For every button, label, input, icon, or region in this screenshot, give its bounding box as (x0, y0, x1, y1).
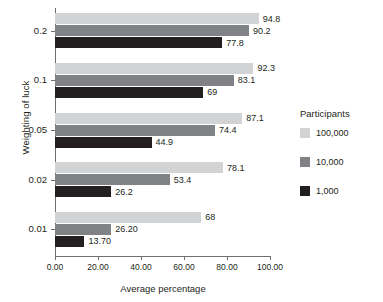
x-axis-tick (184, 256, 185, 260)
bar-value-label: 26.20 (115, 224, 138, 234)
y-axis-title: Weighting of luck (20, 48, 31, 188)
x-axis-tick-label: 0.00 (47, 262, 64, 272)
x-axis-title: Average percentage (55, 283, 271, 294)
bar[interactable] (55, 212, 201, 223)
bar-row: 68 (55, 212, 270, 223)
bar-value-label: 69 (207, 87, 217, 97)
legend-item[interactable]: 100,000 (300, 128, 380, 138)
bar-chart: Weighting of luck 0.294.890.277.80.192.3… (0, 0, 383, 302)
legend-item[interactable]: 10,000 (300, 157, 380, 167)
x-axis-tick (98, 256, 99, 260)
bar-row: 90.2 (55, 25, 270, 36)
legend-item-label: 100,000 (316, 128, 349, 138)
x-axis-tick (141, 256, 142, 260)
x-axis-tick-label: 40.00 (130, 262, 151, 272)
bar-value-label: 78.1 (227, 163, 245, 173)
bar-value-label: 90.2 (253, 26, 271, 36)
bar[interactable] (55, 162, 223, 173)
x-axis-tick (227, 256, 228, 260)
x-axis-tick (55, 256, 56, 260)
bar-row: 13.70 (55, 236, 270, 247)
legend-title: Participants (300, 108, 380, 119)
legend-swatch-icon (300, 128, 310, 138)
legend-item[interactable]: 1,000 (300, 186, 380, 196)
bar[interactable] (55, 75, 234, 86)
bar-group: 0.294.890.277.8 (55, 13, 270, 48)
bar-row: 78.1 (55, 162, 270, 173)
y-axis-tick-label: 0.05 (29, 124, 48, 135)
bar[interactable] (55, 186, 111, 197)
bar[interactable] (55, 137, 152, 148)
bar-row: 92.3 (55, 63, 270, 74)
x-axis-tick-label: 20.00 (87, 262, 108, 272)
bar-row: 26.2 (55, 186, 270, 197)
bar[interactable] (55, 13, 259, 24)
bar-row: 74.4 (55, 125, 270, 136)
bar-group: 0.0587.174.444.9 (55, 113, 270, 148)
bar[interactable] (55, 25, 249, 36)
bar-group: 0.0278.153.426.2 (55, 162, 270, 197)
bar-value-label: 26.2 (115, 187, 133, 197)
bar[interactable] (55, 37, 222, 48)
legend-swatch-icon (300, 157, 310, 167)
bar[interactable] (55, 174, 170, 185)
y-axis-tick-label: 0.1 (34, 74, 47, 85)
bar-group: 0.192.383.169 (55, 63, 270, 98)
bar-value-label: 87.1 (246, 113, 264, 123)
bar-group: 0.016826.2013.70 (55, 212, 270, 247)
y-axis-tick-label: 0.2 (34, 25, 47, 36)
legend: Participants 100,00010,0001,000 (300, 108, 380, 215)
bar[interactable] (55, 125, 215, 136)
x-axis-tick (270, 256, 271, 260)
legend-item-label: 1,000 (316, 186, 339, 196)
bar[interactable] (55, 87, 203, 98)
bar-row: 26.20 (55, 224, 270, 235)
x-axis-tick-label: 80.00 (216, 262, 237, 272)
bar-value-label: 83.1 (238, 75, 256, 85)
bar-row: 53.4 (55, 174, 270, 185)
plot-area: 0.294.890.277.80.192.383.1690.0587.174.4… (55, 8, 270, 256)
bar[interactable] (55, 236, 84, 247)
legend-items: 100,00010,0001,000 (300, 128, 380, 196)
legend-item-label: 10,000 (316, 157, 344, 167)
legend-swatch-icon (300, 186, 310, 196)
bar-value-label: 68 (205, 212, 215, 222)
bar-value-label: 77.8 (226, 38, 244, 48)
bar-value-label: 44.9 (156, 137, 174, 147)
bar-row: 77.8 (55, 37, 270, 48)
x-axis-tick-label: 100.00 (257, 262, 283, 272)
bar-value-label: 13.70 (88, 236, 111, 246)
bar[interactable] (55, 63, 253, 74)
bar-row: 44.9 (55, 137, 270, 148)
y-axis-tick-label: 0.01 (29, 223, 48, 234)
bar[interactable] (55, 113, 242, 124)
bar[interactable] (55, 224, 111, 235)
bar-row: 87.1 (55, 113, 270, 124)
bar-value-label: 53.4 (174, 175, 192, 185)
bar-value-label: 74.4 (219, 125, 237, 135)
bar-row: 94.8 (55, 13, 270, 24)
x-axis-tick-label: 60.00 (173, 262, 194, 272)
y-axis-tick-label: 0.02 (29, 174, 48, 185)
bar-value-label: 92.3 (257, 63, 275, 73)
bar-row: 69 (55, 87, 270, 98)
bar-value-label: 94.8 (263, 14, 281, 24)
x-axis-line (55, 256, 271, 257)
bar-row: 83.1 (55, 75, 270, 86)
